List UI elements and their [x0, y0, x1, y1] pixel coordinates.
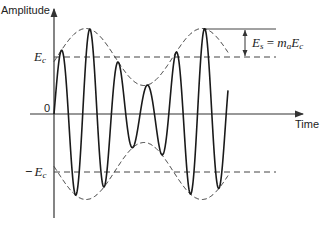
modulated-carrier-wave — [54, 29, 228, 195]
ec-negative-label: −Ec — [25, 164, 46, 180]
x-axis-label: Time — [295, 118, 319, 130]
am-waveform-diagram: Amplitude Time 0 Ec −Ec Es = maEc — [0, 0, 322, 226]
es-arrow-top-icon — [243, 30, 248, 36]
ec-positive-label: Ec — [33, 49, 46, 65]
y-axis-label: Amplitude — [1, 4, 50, 16]
origin-label: 0 — [44, 102, 50, 114]
sideband-equation-label: Es = maEc — [251, 35, 303, 51]
es-arrow-bottom-icon — [243, 50, 248, 56]
